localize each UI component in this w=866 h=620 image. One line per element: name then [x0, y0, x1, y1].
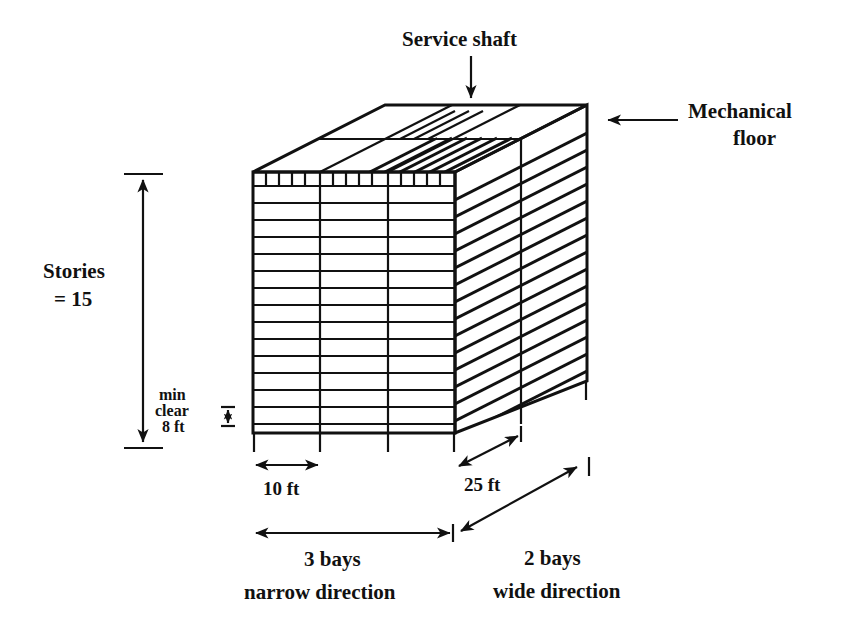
bay-width-dimension: 10 ft [256, 465, 318, 499]
figure-canvas: Service shaft Mechanical floor Stories =… [0, 0, 866, 620]
bay-depth-arrow-icon [459, 436, 518, 466]
service-shaft-label: Service shaft [402, 27, 517, 51]
bay-depth-dimension: 25 ft [459, 426, 521, 495]
min-clear-dimension-icon [221, 407, 235, 426]
bay-depth-label: 25 ft [464, 474, 501, 495]
min-clear-label-line1: min [159, 386, 186, 403]
min-clear-label-line3: 8 ft [162, 418, 185, 435]
stories-label-line1: Stories [43, 259, 105, 283]
wide-direction-label-line2: wide direction [493, 579, 621, 603]
mechanical-floor-label-line1: Mechanical [688, 99, 792, 123]
front-face-plane [253, 172, 455, 433]
mechanical-floor-label-line2: floor [733, 126, 776, 150]
narrow-direction-label-line2: narrow direction [244, 580, 396, 604]
stories-label-line2: = 15 [54, 287, 92, 311]
wide-direction-label-line1: 2 bays [524, 546, 581, 570]
min-clear-label-line2: clear [155, 402, 189, 419]
bay-width-label: 10 ft [263, 478, 300, 499]
narrow-direction-dimension: 3 bays narrow direction [244, 524, 453, 604]
building-diagram-svg: Service shaft Mechanical floor Stories =… [0, 0, 866, 620]
narrow-direction-label-line1: 3 bays [304, 547, 361, 571]
